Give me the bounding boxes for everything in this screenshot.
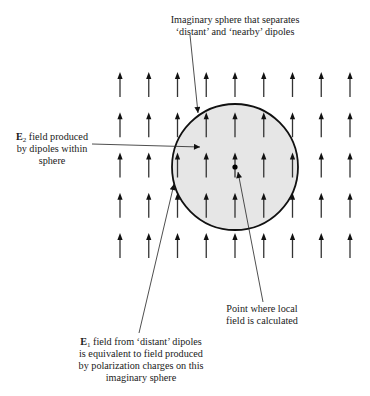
- dipole-arrow-icon: [347, 72, 352, 97]
- e1-leader: [139, 184, 174, 333]
- e2-label-line-2: by dipoles within: [10, 143, 94, 155]
- e2-label: E2 field produced by dipoles within sphe…: [10, 131, 94, 167]
- dipole-arrow-icon: [146, 153, 151, 178]
- dipole-arrow-icon: [232, 72, 237, 97]
- e1-label: E1 field from ‘distant’ dipoles is equiv…: [70, 336, 212, 384]
- dipole-arrow-icon: [290, 72, 295, 97]
- dipole-arrow-icon: [204, 233, 209, 258]
- dipole-arrow-icon: [261, 72, 266, 97]
- dipole-arrow-icon: [146, 233, 151, 258]
- e1-label-text: field from ‘distant’ dipoles: [91, 336, 202, 347]
- dipole-arrow-icon: [347, 112, 352, 137]
- dipole-arrow-icon: [319, 193, 324, 218]
- dipole-arrow-icon: [319, 153, 324, 178]
- dipole-arrow-icon: [319, 72, 324, 97]
- e1-label-line-2: is equivalent to field produced: [70, 348, 212, 360]
- e2-label-text: field produced: [26, 131, 88, 142]
- dipole-arrow-icon: [117, 72, 122, 97]
- dipole-arrow-icon: [175, 233, 180, 258]
- dipole-arrow-icon: [146, 112, 151, 137]
- dipole-arrow-icon: [290, 112, 295, 137]
- point-label-line-2: field is calculated: [222, 315, 302, 327]
- dipole-arrow-icon: [347, 153, 352, 178]
- dipole-arrow-icon: [117, 112, 122, 137]
- sphere-label-line-1: Imaginary sphere that separates: [135, 14, 335, 26]
- dipole-arrow-icon: [175, 112, 180, 137]
- dipole-arrow-icon: [290, 233, 295, 258]
- e2-label-line-1: E2 field produced: [10, 131, 94, 143]
- dipole-arrow-icon: [347, 193, 352, 218]
- dipole-arrow-icon: [347, 233, 352, 258]
- sphere-label: Imaginary sphere that separates ‘distant…: [135, 14, 335, 38]
- dipole-arrow-icon: [175, 72, 180, 97]
- sphere-label-line-2: ‘distant’ and ‘nearby’ dipoles: [135, 26, 335, 38]
- dipole-arrow-icon: [146, 193, 151, 218]
- point-label-line-1: Point where local: [222, 303, 302, 315]
- dipole-arrow-icon: [204, 72, 209, 97]
- sphere-leader: [190, 35, 198, 113]
- dipole-arrow-icon: [117, 153, 122, 178]
- dipole-arrow-icon: [319, 112, 324, 137]
- point-label: Point where local field is calculated: [222, 303, 302, 327]
- dipole-arrow-icon: [117, 193, 122, 218]
- dipole-arrow-icon: [232, 233, 237, 258]
- e1-label-line-4: imaginary sphere: [70, 372, 212, 384]
- lorentz-sphere-diagram: Imaginary sphere that separates ‘distant…: [0, 0, 370, 396]
- field-point-dot: [232, 164, 237, 169]
- dipole-arrow-icon: [146, 72, 151, 97]
- dipole-arrow-icon: [117, 233, 122, 258]
- e2-symbol: E: [16, 131, 23, 142]
- e1-label-line-1: E1 field from ‘distant’ dipoles: [70, 336, 212, 348]
- e1-label-line-3: by polarization charges on this: [70, 360, 212, 372]
- e2-label-line-3: sphere: [10, 155, 94, 167]
- dipole-arrow-icon: [319, 233, 324, 258]
- e1-symbol: E: [80, 336, 87, 347]
- dipole-arrow-icon: [261, 233, 266, 258]
